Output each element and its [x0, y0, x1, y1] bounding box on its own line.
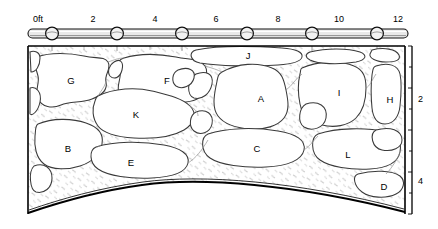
- h-tick-8: 8: [275, 14, 280, 24]
- stone-label-I: I: [338, 87, 341, 98]
- horizontal-tick-labels: 0ft 2 4 6 8 10 12: [33, 14, 403, 24]
- stone-filler-right-up: [306, 49, 365, 64]
- masonry-arch-drawing: 0ft 2 4 6 8 10 12: [0, 0, 438, 229]
- stone-label-F: F: [164, 75, 170, 86]
- stone-filler-bot-left: [30, 165, 52, 193]
- stone-label-J: J: [246, 50, 251, 61]
- stone-label-K: K: [133, 109, 140, 120]
- stone-label-L: L: [345, 149, 350, 160]
- ruler-bar: [28, 29, 408, 38]
- v-tick-4: 4: [418, 176, 423, 186]
- stone-filler-mid-low: [190, 111, 212, 134]
- h-tick-2: 2: [90, 14, 95, 24]
- h-tick-12: 12: [393, 14, 403, 24]
- stone-label-C: C: [254, 143, 261, 154]
- h-tick-6: 6: [213, 14, 218, 24]
- figure-canvas: 0ft 2 4 6 8 10 12: [0, 0, 438, 229]
- vertical-ruler[interactable]: 2 4: [408, 46, 423, 214]
- stone-filler-far-right: [370, 49, 400, 62]
- stone-E: [91, 142, 188, 178]
- h-tick-0: 0ft: [33, 14, 44, 24]
- stone-label-A: A: [258, 93, 265, 104]
- horizontal-ruler[interactable]: 0ft 2 4 6 8 10 12: [28, 14, 408, 40]
- stone-label-G: G: [67, 75, 74, 86]
- masonry-wall: G F J A I H K B E C L D: [28, 46, 405, 214]
- stone-label-E: E: [128, 157, 134, 168]
- v-tick-2: 2: [418, 94, 423, 104]
- h-tick-4: 4: [152, 14, 157, 24]
- stone-label-D: D: [381, 181, 388, 192]
- stone-label-H: H: [387, 94, 394, 105]
- stone-label-B: B: [65, 143, 71, 154]
- stone-filler-bot-right: [372, 128, 402, 150]
- stone-A: [214, 64, 288, 129]
- h-tick-10: 10: [334, 14, 344, 24]
- stone-filler-right-low: [300, 103, 327, 129]
